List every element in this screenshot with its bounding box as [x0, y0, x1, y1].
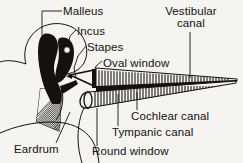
label-oval-window: Oval window: [103, 57, 169, 69]
label-cochlear-canal: Cochlear canal: [131, 110, 209, 122]
label-vestibular-canal-line2: canal: [157, 18, 225, 30]
ear-anatomy-figure: Malleus Incus Stapes Oval window Vestibu…: [0, 0, 243, 163]
label-stapes: Stapes: [87, 41, 123, 53]
label-eardrum: Eardrum: [14, 143, 59, 155]
label-tympanic-canal: Tympanic canal: [112, 126, 193, 138]
incus-foramen: [64, 47, 70, 53]
label-incus: Incus: [77, 25, 105, 37]
label-malleus: Malleus: [63, 5, 103, 17]
label-round-window: Round window: [92, 145, 169, 157]
label-vestibular-canal-line1: Vestibular: [165, 5, 217, 17]
label-vestibular-canal: Vestibular canal: [157, 6, 225, 29]
